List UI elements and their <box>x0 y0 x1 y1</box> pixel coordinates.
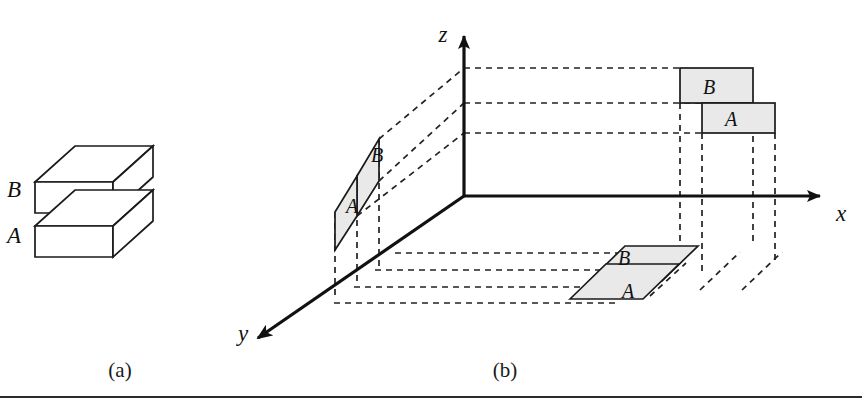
dash-yz-b-bottom-to-z <box>379 103 464 181</box>
xz-projection-b <box>680 68 753 103</box>
bottom-divider-rule <box>0 396 862 398</box>
dash-yz-b-top-to-z <box>379 68 464 139</box>
block-a-front-face <box>35 226 113 257</box>
yz-plane-projections: B A <box>335 139 383 250</box>
xy-plane-projections: B A <box>570 246 698 302</box>
xz-projection-a-label: A <box>723 108 738 130</box>
figure-canvas: B A <box>0 0 862 408</box>
xz-projection-b-label: B <box>703 76 715 98</box>
dash-xy-diag-3 <box>700 252 740 290</box>
caption-panel-b: (b) <box>442 358 568 383</box>
y-axis-label: y <box>236 321 249 346</box>
figure-root: B A <box>0 0 862 408</box>
xy-projection-a-label: A <box>620 280 635 302</box>
xz-plane-projections: B A <box>680 68 775 133</box>
yz-projection-a-label: A <box>344 195 359 217</box>
block-a-label: A <box>5 223 22 248</box>
x-axis-label: x <box>835 201 847 226</box>
xz-projection-a <box>702 103 775 133</box>
xy-projection-b-label: B <box>618 247 630 269</box>
y-axis-line <box>258 196 464 338</box>
block-b-label: B <box>7 177 21 202</box>
yz-projection-b-label: B <box>371 144 383 166</box>
caption-panel-a: (a) <box>62 358 178 383</box>
z-axis-label: z <box>438 22 448 47</box>
dash-xy-diag-4 <box>742 252 782 290</box>
panel-a-blocks: B A <box>5 146 153 257</box>
panel-b-diagram: B A B A B A <box>236 22 847 346</box>
